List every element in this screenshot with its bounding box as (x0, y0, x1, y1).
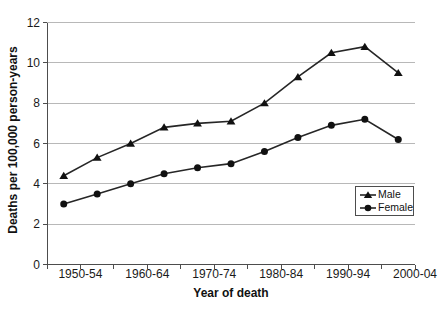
female-marker (294, 134, 301, 141)
y-tick-label: 8 (33, 96, 40, 110)
y-tick-label: 0 (33, 258, 40, 272)
female-marker (94, 190, 101, 197)
y-tick-label: 2 (33, 217, 40, 231)
legend-item-male: Male (360, 188, 411, 201)
y-tick-label: 12 (27, 16, 41, 30)
legend-label-male: Male (378, 188, 401, 201)
legend-item-female: Female (360, 201, 411, 214)
y-tick-label: 6 (33, 137, 40, 151)
female-marker (328, 122, 335, 129)
female-marker (127, 180, 134, 187)
y-tick-label: 4 (33, 177, 40, 191)
x-tick-label: 2000-04 (393, 267, 437, 281)
x-tick-label: 1970-74 (192, 267, 236, 281)
y-tick-label: 10 (27, 56, 41, 70)
triangle-marker-icon (360, 190, 376, 200)
female-marker (261, 148, 268, 155)
chart: 0246810121950-541960-641970-741980-84199… (0, 0, 445, 313)
female-marker (228, 160, 235, 167)
x-tick-label: 1950-54 (58, 267, 102, 281)
female-marker (194, 164, 201, 171)
male-marker (59, 172, 68, 179)
circle-marker-icon (360, 203, 376, 213)
female-marker (395, 136, 402, 143)
plot-area: 0246810121950-541960-641970-741980-84199… (0, 0, 445, 313)
male-line (64, 47, 399, 176)
x-axis-title: Year of death (47, 286, 415, 300)
legend: Male Female (355, 186, 414, 216)
y-axis-title: Deaths per 100,000 person-years (6, 46, 20, 233)
female-marker (361, 116, 368, 123)
x-tick-label: 1960-64 (125, 267, 169, 281)
female-marker (161, 170, 168, 177)
x-tick-label: 1980-84 (259, 267, 303, 281)
male-marker (360, 43, 369, 50)
legend-label-female: Female (378, 201, 413, 214)
x-tick-label: 1990-94 (326, 267, 370, 281)
male-marker (93, 154, 102, 161)
female-marker (60, 201, 67, 208)
